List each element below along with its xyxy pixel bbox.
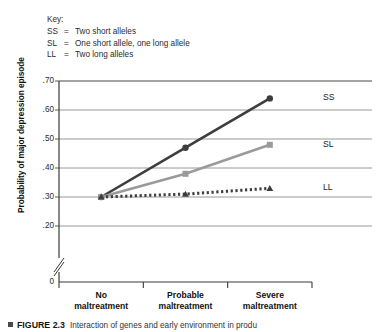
caption-figure-number: FIGURE 2.3 (17, 320, 65, 330)
plot-canvas (0, 0, 378, 332)
line-chart: Probability of major depression episode … (0, 0, 378, 332)
caption-bullet-icon (8, 322, 13, 327)
caption-text: Interaction of genes and early environme… (70, 321, 257, 330)
figure-caption: FIGURE 2.3Interaction of genes and early… (8, 320, 374, 332)
